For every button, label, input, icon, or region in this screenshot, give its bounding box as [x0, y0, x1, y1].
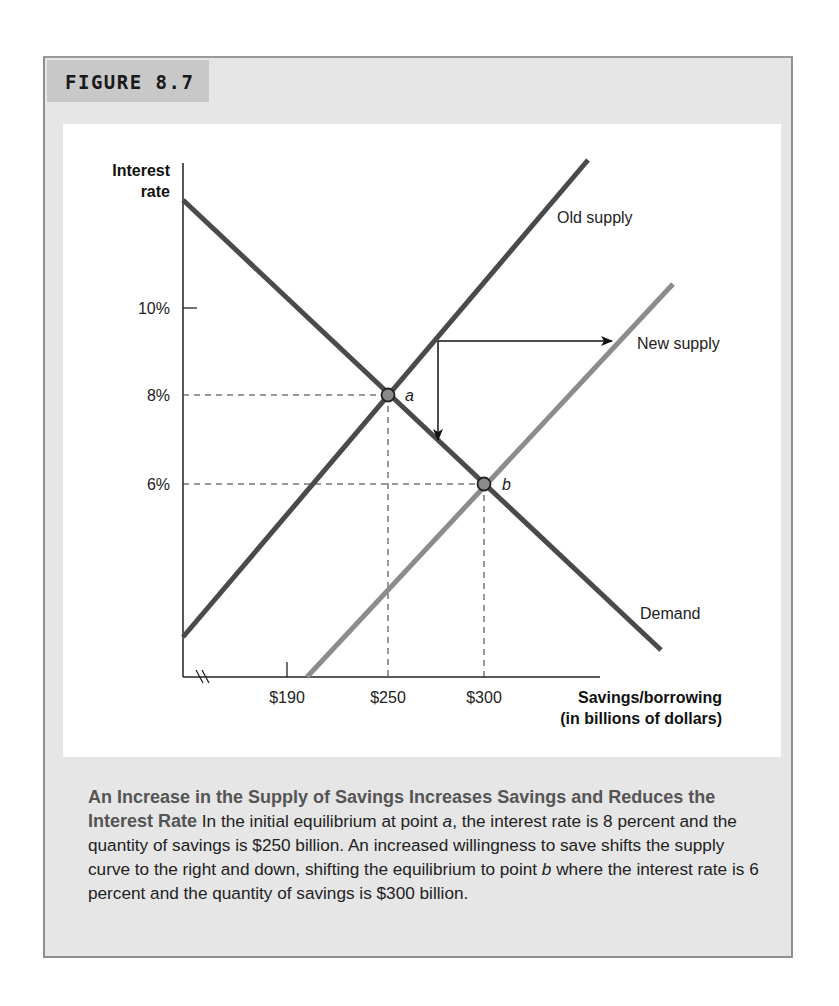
supply-demand-chart: Interest rate 10% 8% 6% $190 $250 $300 S… [0, 0, 839, 1006]
y-tick-label-8: 8% [147, 387, 170, 404]
y-tick-label-6: 6% [147, 476, 170, 493]
new-supply-label: New supply [637, 335, 720, 352]
y-axis-label-1: Interest [112, 162, 170, 179]
x-axis-label-2: (in billions of dollars) [560, 710, 722, 727]
x-tick-label-190: $190 [269, 689, 305, 706]
y-axis-label-2: rate [141, 183, 170, 200]
old-supply-label: Old supply [557, 209, 633, 226]
y-tick-label-10: 10% [138, 300, 170, 317]
x-tick-label-250: $250 [370, 689, 406, 706]
point-a-label: a [405, 387, 414, 404]
point-b-marker [478, 478, 491, 491]
point-b-label: b [502, 476, 511, 493]
demand-label: Demand [640, 605, 700, 622]
x-axis-label-1: Savings/borrowing [578, 689, 722, 706]
x-tick-label-300: $300 [466, 689, 502, 706]
demand-curve [183, 200, 661, 650]
point-a-marker [382, 389, 395, 402]
